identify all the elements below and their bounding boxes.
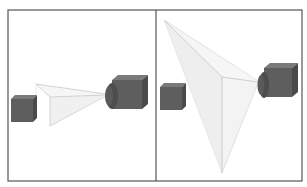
figure-canvas: [0, 0, 307, 187]
small-cube: [160, 83, 186, 110]
small-cube: [11, 95, 37, 122]
